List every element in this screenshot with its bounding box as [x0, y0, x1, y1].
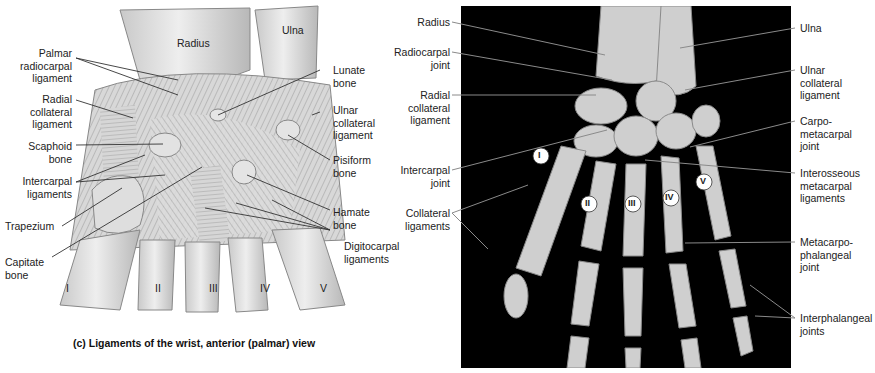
xray-label-carpometacarpal-joint: Carpo- metacarpal joint [800, 115, 852, 153]
label-hamate-bone: Hamate bone [333, 206, 370, 231]
metacarpal-2 [138, 240, 175, 310]
metacarpal-label-5: V [320, 282, 327, 295]
xray-label-radial-collateral-ligament: Radial collateral ligament [408, 89, 450, 127]
xray-label-radius: Radius [417, 16, 450, 29]
xray-label-collateral-ligaments: Collateral ligaments [405, 207, 450, 232]
xray-bones [461, 6, 791, 368]
xray-label-intercarpal-joint: Intercarpal joint [400, 164, 450, 189]
radius-bone-label: Radius [177, 37, 210, 50]
xray-metacarpal-label-3: III [628, 197, 636, 210]
metacarpal-3 [185, 242, 220, 312]
xray-label-radiocarpal-joint: Radiocarpal joint [394, 46, 450, 71]
label-capitate-bone: Capitate bone [5, 256, 44, 281]
metacarpal-label-4: IV [260, 282, 270, 295]
label-digitocarpal-ligaments: Digitocarpal ligaments [344, 240, 399, 265]
xray-label-metacarpophalangeal-joint: Metacarpo- phalangeal joint [800, 236, 853, 274]
ulna-bone-shape [255, 6, 318, 80]
scaphoid-shape [149, 133, 181, 157]
metacarpal-label-3: III [209, 282, 218, 295]
label-pisiform-bone: Pisiform bone [333, 154, 371, 179]
hand-xray-image: I II III IV V [461, 6, 791, 368]
xray-label-ulnar-collateral-ligament: Ulnar collateral ligament [800, 64, 842, 102]
label-trapezium: Trapezium [5, 220, 54, 233]
trapezium-shape [92, 176, 144, 234]
xray-metacarpal-label-4: IV [665, 191, 674, 204]
xray-metacarpal-label-5: V [700, 175, 706, 188]
label-lunate-bone: Lunate bone [333, 64, 365, 89]
label-intercarpal-ligaments: Intercarpal ligaments [22, 175, 72, 200]
wrist-ligaments-illustration: Radius Ulna I II III IV V Palmar radioca… [0, 0, 440, 373]
pisiform-shape [276, 120, 300, 140]
ulna-bone-label: Ulna [282, 24, 304, 37]
xray-metacarpal-label-2: II [585, 197, 590, 210]
figure-caption: (c) Ligaments of the wrist, anterior (pa… [73, 337, 315, 349]
metacarpal-label-1: I [66, 282, 69, 295]
xray-label-interphalangeal-joints: Interphalangeal joints [800, 312, 872, 337]
metacarpal-4 [228, 238, 268, 312]
label-palmar-radiocarpal-ligament: Palmar radiocarpal ligament [20, 47, 72, 85]
xray-label-ulna: Ulna [800, 22, 822, 35]
xray-metacarpal-label-1: I [538, 149, 541, 162]
xray-label-interosseous-metacarpal-ligaments: Interosseous metacarpal ligaments [800, 167, 860, 205]
label-radial-collateral-ligament: Radial collateral ligament [30, 93, 72, 131]
label-scaphoid-bone: Scaphoid bone [28, 140, 72, 165]
hamate-shape [232, 160, 256, 184]
label-ulnar-collateral-ligament: Ulnar collateral ligament [333, 104, 375, 142]
metacarpal-label-2: II [155, 282, 161, 295]
